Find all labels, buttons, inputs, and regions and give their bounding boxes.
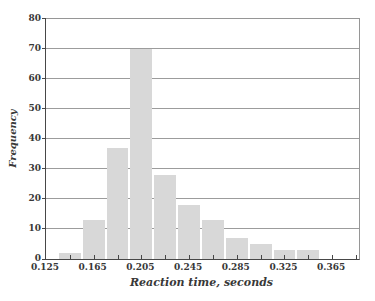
x-tick	[284, 255, 285, 259]
y-tick	[42, 259, 46, 260]
x-tick	[332, 255, 333, 259]
y-tick	[42, 138, 46, 139]
y-tick	[42, 168, 46, 169]
x-tick	[118, 255, 119, 259]
x-tick-label: 0.245	[164, 261, 212, 273]
y-tick	[42, 48, 46, 49]
histogram-bar	[154, 175, 176, 259]
gridline-y-20	[46, 198, 359, 199]
x-tick	[94, 255, 95, 259]
x-tick-label: 0.325	[259, 261, 307, 273]
x-tick	[141, 255, 142, 259]
x-tick-label: 0.285	[212, 261, 260, 273]
y-tick-label: 30	[12, 162, 41, 174]
x-tick	[237, 255, 238, 259]
y-tick-label: 50	[12, 102, 41, 114]
x-tick	[356, 255, 357, 259]
y-tick-label: 70	[12, 42, 41, 54]
y-tick	[42, 198, 46, 199]
gridline-y-70	[46, 48, 359, 49]
y-tick-label: 60	[12, 72, 41, 84]
x-tick-label: 0.125	[21, 261, 69, 273]
histogram-bar	[107, 148, 129, 259]
x-tick-label: 0.165	[69, 261, 117, 273]
histogram-bar	[130, 49, 152, 259]
y-tick	[42, 78, 46, 79]
gridline-y-50	[46, 108, 359, 109]
y-tick-label: 40	[12, 132, 41, 144]
x-tick	[213, 255, 214, 259]
histogram-bar	[83, 220, 105, 259]
y-tick-label: 80	[12, 12, 41, 24]
plot-area	[45, 18, 360, 260]
x-tick	[165, 255, 166, 259]
x-tick-label: 0.205	[116, 261, 164, 273]
histogram-bar	[202, 220, 224, 259]
x-tick-label: 0.365	[307, 261, 355, 273]
y-tick-label: 10	[12, 222, 41, 234]
gridline-y-60	[46, 78, 359, 79]
gridline-y-30	[46, 168, 359, 169]
x-tick	[189, 255, 190, 259]
histogram-bar	[178, 205, 200, 259]
y-tick-label: 20	[12, 192, 41, 204]
x-axis-title: Reaction time, seconds	[45, 276, 358, 289]
y-tick	[42, 108, 46, 109]
y-tick	[42, 18, 46, 19]
x-tick	[70, 255, 71, 259]
x-tick	[261, 255, 262, 259]
x-tick	[308, 255, 309, 259]
histogram-figure: Frequency Reaction time, seconds 0102030…	[0, 0, 375, 301]
gridline-y-40	[46, 138, 359, 139]
y-tick	[42, 228, 46, 229]
